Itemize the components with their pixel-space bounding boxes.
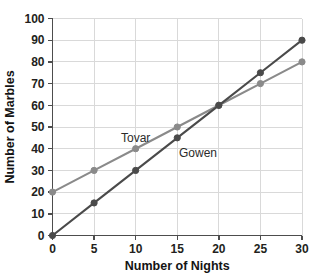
- y-tick-label: 60: [31, 99, 45, 113]
- line-chart: 0102030405060708090100051015202530TovarG…: [0, 0, 317, 275]
- x-tick-label: 25: [254, 242, 268, 256]
- y-tick-label: 80: [31, 55, 45, 69]
- x-tick-label: 10: [129, 242, 143, 256]
- data-point: [174, 124, 180, 130]
- x-tick-label: 20: [212, 242, 226, 256]
- data-point: [49, 232, 55, 238]
- x-tick-label: 15: [171, 242, 185, 256]
- y-tick-label: 50: [31, 120, 45, 134]
- series-label-gowen: Gowen: [179, 146, 217, 160]
- y-tick-label: 30: [31, 164, 45, 178]
- series-label-tovar: Tovar: [121, 131, 150, 145]
- data-point: [257, 81, 263, 87]
- y-tick-label: 40: [31, 142, 45, 156]
- data-point: [91, 200, 97, 206]
- data-point: [91, 167, 97, 173]
- data-point: [299, 59, 305, 65]
- x-tick-label: 30: [295, 242, 309, 256]
- y-axis-title: Number of Marbles: [3, 70, 17, 183]
- data-point: [216, 102, 222, 108]
- data-point: [49, 189, 55, 195]
- x-tick-label: 5: [91, 242, 98, 256]
- x-axis-ticks: 051015202530: [49, 236, 309, 256]
- y-tick-label: 90: [31, 33, 45, 47]
- y-tick-label: 0: [38, 229, 45, 243]
- x-axis-title: Number of Nights: [125, 259, 230, 273]
- y-tick-label: 20: [31, 185, 45, 199]
- chart-canvas: 0102030405060708090100051015202530TovarG…: [0, 0, 317, 275]
- y-tick-label: 100: [24, 12, 44, 26]
- y-tick-label: 10: [31, 207, 45, 221]
- y-axis-ticks: 0102030405060708090100: [24, 12, 52, 243]
- data-point: [257, 70, 263, 76]
- data-point: [133, 146, 139, 152]
- x-tick-label: 0: [49, 242, 56, 256]
- y-tick-label: 70: [31, 77, 45, 91]
- data-point: [133, 167, 139, 173]
- data-point: [174, 135, 180, 141]
- data-point: [299, 37, 305, 43]
